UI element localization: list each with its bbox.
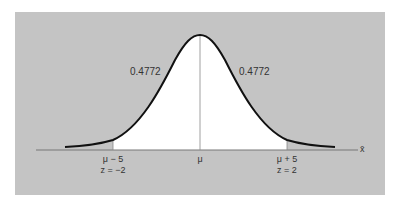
tick-left-line2: z = −2 bbox=[93, 165, 133, 176]
axis-label: x̄ bbox=[360, 144, 365, 154]
tick-mid: μ bbox=[180, 154, 220, 165]
right-area-label: 0.4772 bbox=[239, 66, 270, 77]
left-area-label: 0.4772 bbox=[130, 66, 161, 77]
tick-right-line2: z = 2 bbox=[267, 165, 307, 176]
tick-right: μ + 5 z = 2 bbox=[267, 154, 307, 176]
tick-left-line1: μ − 5 bbox=[93, 154, 133, 165]
tick-left: μ − 5 z = −2 bbox=[93, 154, 133, 176]
tick-right-line1: μ + 5 bbox=[267, 154, 307, 165]
normal-curve-plot bbox=[0, 0, 397, 203]
tick-mid-line1: μ bbox=[180, 154, 220, 165]
